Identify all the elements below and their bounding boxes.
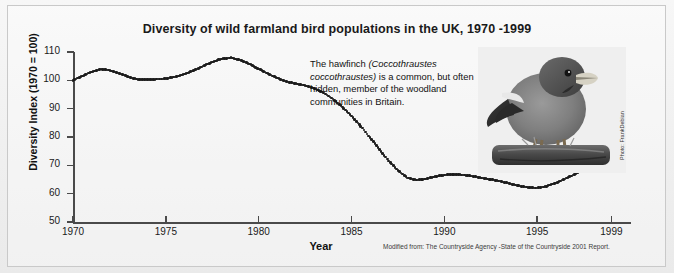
hawfinch-photo: [478, 47, 626, 173]
x-axis-tick: [351, 216, 353, 223]
caption-text: The hawfinch (Coccothraustes coccothraus…: [310, 58, 492, 108]
y-axis-tick-label: 80: [20, 130, 60, 141]
x-axis-tick-label: 1999: [581, 226, 641, 237]
x-axis-tick: [72, 216, 74, 223]
y-axis-tick: [67, 51, 74, 53]
x-axis-tick: [536, 216, 538, 223]
y-axis-tick-label: 70: [20, 158, 60, 169]
y-axis-tick-label: 90: [20, 102, 60, 113]
x-axis-tick: [165, 216, 167, 223]
y-axis-tick-label: 110: [20, 45, 60, 56]
caption-part1: The hawfinch: [310, 58, 368, 69]
x-axis-label: Year: [281, 240, 361, 252]
y-axis-tick-label: 60: [20, 187, 60, 198]
chart-title: Diversity of wild farmland bird populati…: [0, 22, 674, 36]
x-axis-tick-label: 1970: [43, 226, 103, 237]
x-axis-tick: [258, 216, 260, 223]
photo-credit: Photo: FrankDebian: [619, 111, 625, 160]
y-axis-tick-label: 50: [20, 215, 60, 226]
y-axis-tick: [67, 108, 74, 110]
source-note: Modified from: The Countryside Agency -S…: [383, 243, 610, 250]
y-axis-tick: [67, 165, 74, 167]
x-axis-tick: [444, 216, 446, 223]
x-axis-tick-label: 1985: [322, 226, 382, 237]
x-axis-tick: [611, 216, 613, 223]
y-axis-tick: [67, 136, 74, 138]
x-axis-tick-label: 1995: [507, 226, 567, 237]
x-axis-tick-label: 1975: [136, 226, 196, 237]
x-axis-tick-label: 1980: [229, 226, 289, 237]
figure-container: Diversity of wild farmland bird populati…: [0, 0, 674, 273]
y-axis-tick: [67, 193, 74, 195]
x-axis-tick-label: 1990: [414, 226, 474, 237]
y-axis-tick-label: 100: [20, 73, 60, 84]
